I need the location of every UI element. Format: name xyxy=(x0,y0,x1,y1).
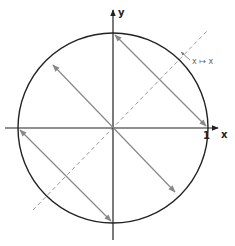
x-axis-label: x xyxy=(221,129,228,140)
reflection-arrow-top xyxy=(115,35,206,126)
dashed-diagonal-line xyxy=(33,30,208,210)
mapping-annotation: x ↦ x xyxy=(192,57,214,66)
diagram-canvas: y x 1 x ↦ x xyxy=(0,0,235,246)
tick-label-one: 1 xyxy=(203,130,210,141)
y-axis-label: y xyxy=(118,7,125,18)
